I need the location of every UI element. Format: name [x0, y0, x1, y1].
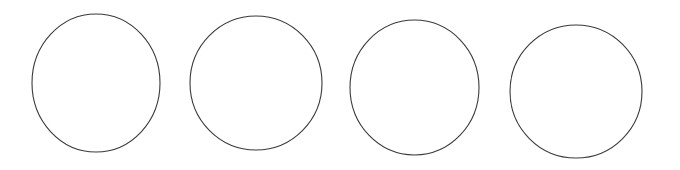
- circle-2[interactable]: [190, 16, 322, 150]
- shape-layer: [0, 0, 680, 170]
- circle-3[interactable]: [350, 20, 479, 155]
- drawing-canvas: [0, 0, 680, 170]
- circle-4[interactable]: [510, 25, 642, 158]
- circle-1[interactable]: [32, 14, 160, 152]
